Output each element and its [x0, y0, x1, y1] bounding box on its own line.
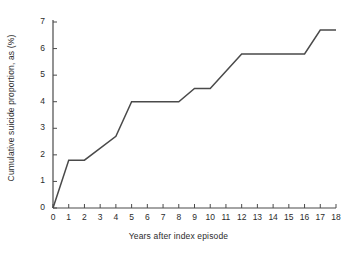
y-axis-tick-label: 6	[27, 43, 45, 53]
y-axis-tick-label: 1	[27, 175, 45, 185]
y-axis-title-wrapper: Cumulative suicide proportion, as (%)	[0, 0, 22, 215]
y-axis-title: Cumulative suicide proportion, as (%)	[6, 34, 16, 181]
chart-axes	[53, 20, 336, 208]
chart-container: Cumulative suicide proportion, as (%) Ye…	[0, 0, 357, 258]
y-axis-tick-label: 0	[27, 202, 45, 212]
x-axis-tick-label: 18	[324, 212, 348, 222]
y-axis-tick-label: 3	[27, 122, 45, 132]
y-axis-tick-label: 2	[27, 149, 45, 159]
y-axis-tick-label: 5	[27, 69, 45, 79]
x-axis-title: Years after index episode	[0, 231, 357, 241]
data-series-line	[53, 30, 336, 208]
y-axis-tick-label: 4	[27, 96, 45, 106]
y-axis-tick-label: 7	[27, 16, 45, 26]
